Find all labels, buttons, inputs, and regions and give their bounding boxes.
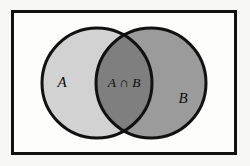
set-b-label: B	[178, 90, 187, 106]
intersection-label: A ∩ B	[107, 75, 141, 90]
venn-diagram-figure: A A ∩ B B	[0, 0, 250, 166]
venn-diagram-canvas: A A ∩ B B	[0, 0, 250, 166]
set-a-label: A	[56, 74, 67, 90]
